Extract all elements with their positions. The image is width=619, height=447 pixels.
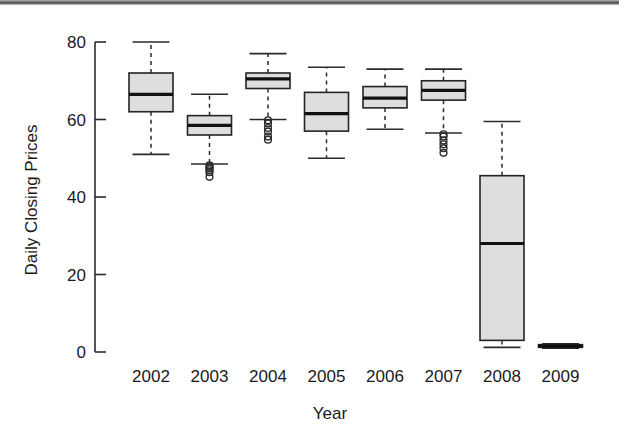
- boxplot-group-2004: [246, 54, 290, 143]
- outlier-point: [206, 173, 213, 180]
- x-axis-tick-label: 2003: [191, 367, 229, 386]
- boxplot-group-2003: [188, 94, 232, 180]
- x-axis-tick-label: 2009: [542, 367, 580, 386]
- boxplot-group-2007: [422, 69, 466, 156]
- y-axis-tick-label: 80: [67, 33, 86, 52]
- box-iqr: [305, 92, 349, 131]
- x-axis-tick-label: 2005: [308, 367, 346, 386]
- x-axis-title: Year: [313, 404, 348, 423]
- boxplot-group-2009: [539, 344, 583, 348]
- y-axis-tick-label: 60: [67, 111, 86, 130]
- x-axis-tick-label: 2006: [366, 367, 404, 386]
- box-iqr: [480, 176, 524, 341]
- y-axis-tick-label: 20: [67, 266, 86, 285]
- boxplot-group-2008: [480, 121, 524, 347]
- boxplot-group-2005: [305, 67, 349, 158]
- box-iqr: [129, 73, 173, 112]
- boxplot-chart: 020406080Daily Closing Prices20022003200…: [0, 0, 619, 447]
- x-axis-tick-label: 2002: [132, 367, 170, 386]
- box-iqr: [246, 73, 290, 89]
- boxplot-group-2002: [129, 42, 173, 154]
- y-axis-tick-label: 0: [77, 343, 86, 362]
- y-axis-title: Daily Closing Prices: [22, 124, 41, 275]
- x-axis-tick-label: 2007: [425, 367, 463, 386]
- x-axis-tick-label: 2008: [483, 367, 521, 386]
- boxplot-group-2006: [363, 69, 407, 129]
- y-axis-tick-label: 40: [67, 188, 86, 207]
- chart-canvas: 020406080Daily Closing Prices20022003200…: [0, 0, 619, 447]
- x-axis-tick-label: 2004: [249, 367, 287, 386]
- outlier-point: [440, 149, 447, 156]
